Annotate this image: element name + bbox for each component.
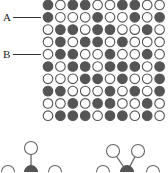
open-atom	[25, 142, 38, 155]
open-atom	[147, 166, 160, 173]
right-molecule	[97, 145, 160, 173]
filled-center-atom	[25, 166, 38, 173]
open-atom	[49, 166, 62, 173]
figure: A B	[0, 0, 168, 172]
open-atom	[132, 145, 145, 158]
open-atom	[2, 166, 15, 173]
molecule-diagrams	[0, 0, 168, 172]
filled-center-atom	[121, 166, 134, 173]
open-atom	[97, 166, 110, 173]
left-molecule	[2, 142, 62, 173]
open-atom	[107, 145, 120, 158]
